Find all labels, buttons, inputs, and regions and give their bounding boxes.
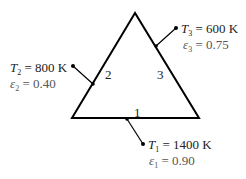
temperature-label-side-3: T3 = 600 K	[181, 22, 238, 38]
side-number-1: 1	[134, 105, 141, 121]
dot-side-3-surface	[154, 44, 158, 48]
emissivity-label-side-1: ε1 = 0.90	[149, 154, 195, 170]
dot-side-3-label	[174, 26, 178, 30]
dot-side-2-label	[71, 64, 75, 68]
leader-line-side-2	[73, 66, 93, 84]
leader-line-side-1	[127, 119, 143, 144]
triangle-enclosure	[72, 13, 199, 118]
dot-side-2-surface	[91, 82, 95, 86]
dot-side-1-label	[141, 142, 145, 146]
dot-side-1-surface	[125, 117, 129, 121]
side-number-3: 3	[157, 67, 164, 83]
temperature-label-side-1: T1 = 1400 K	[148, 138, 212, 154]
leader-line-side-3	[156, 28, 176, 46]
emissivity-label-side-2: ε2 = 0.40	[10, 77, 56, 93]
emissivity-label-side-3: ε3 = 0.75	[183, 38, 229, 54]
temperature-label-side-2: T2 = 800 K	[10, 61, 67, 77]
side-number-2: 2	[105, 67, 112, 83]
